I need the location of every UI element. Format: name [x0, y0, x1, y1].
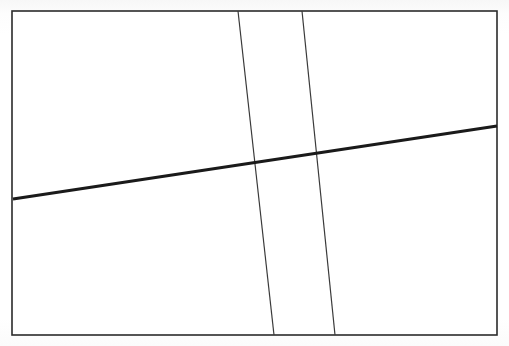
line-drawing-svg: [0, 0, 509, 346]
figure-canvas: [0, 0, 509, 346]
bounding-rectangle: [12, 11, 497, 335]
